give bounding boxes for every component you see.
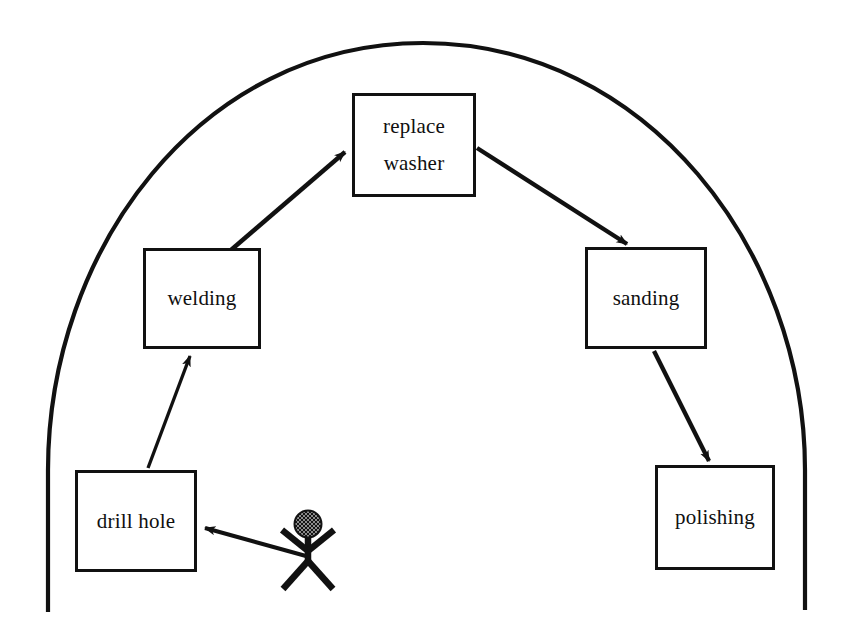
activity-node-label: drill hole xyxy=(97,503,175,540)
edge-replace-washer-to-sanding xyxy=(477,148,627,244)
activity-node-drill-hole[interactable]: drill hole xyxy=(75,470,197,572)
activity-node-label: welding xyxy=(167,280,236,317)
activity-node-replace-washer[interactable]: replace washer xyxy=(352,93,476,197)
edge-sanding-to-polishing xyxy=(654,351,709,461)
activity-node-sanding[interactable]: sanding xyxy=(585,247,707,349)
activity-node-label: replace xyxy=(383,108,445,145)
edge-welding-to-replace-washer xyxy=(231,152,345,250)
actor-head-icon xyxy=(295,511,322,538)
activity-node-welding[interactable]: welding xyxy=(143,248,261,349)
activity-node-polishing[interactable]: polishing xyxy=(655,465,775,570)
activity-node-label: polishing xyxy=(675,499,755,536)
actor-leg-right xyxy=(308,561,333,589)
diagram-canvas: replace washer welding sanding drill hol… xyxy=(0,0,847,634)
activity-node-label-second-line: washer xyxy=(384,145,445,182)
edge-drill-hole-to-welding xyxy=(148,356,190,468)
activity-node-label: sanding xyxy=(613,280,680,317)
edge-actor-to-drill-hole xyxy=(205,528,306,556)
actor-leg-left xyxy=(283,561,308,589)
